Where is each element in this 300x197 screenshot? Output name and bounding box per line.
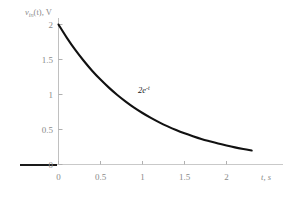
y-tick-label-4: 2 <box>49 20 54 30</box>
y-axis-label-arg: (t), V <box>34 7 53 17</box>
svg-text:vin(t), V: vin(t), V <box>25 7 53 18</box>
curve-label-base: 2e <box>138 85 146 95</box>
x-tick-label-1: 0.5 <box>95 172 107 182</box>
x-axis-label: t, s <box>261 172 272 182</box>
y-tick-label-1: 0.5 <box>42 125 54 135</box>
x-axis-ticks <box>59 161 227 165</box>
y-axis-label: vin(t), V <box>25 7 53 18</box>
curve-label-annotation: 2e-t <box>138 85 150 95</box>
y-axis-ticks <box>59 25 63 165</box>
x-tick-label-4: 2 <box>224 172 229 182</box>
exponential-decay-plot: 0 0.5 1 1.5 2 0 0.5 1 1.5 2 t, s vin(t),… <box>0 0 300 197</box>
chart-figure: 0 0.5 1 1.5 2 0 0.5 1 1.5 2 t, s vin(t),… <box>0 0 300 197</box>
x-tick-label-0: 0 <box>56 172 61 182</box>
y-tick-label-0: 0 <box>49 160 54 170</box>
y-tick-label-3: 1.5 <box>42 55 54 65</box>
curve-label-exponent: -t <box>146 85 150 91</box>
x-tick-label-3: 1.5 <box>179 172 191 182</box>
y-tick-label-2: 1 <box>49 90 54 100</box>
x-tick-label-2: 1 <box>140 172 145 182</box>
curve-exponential-decay <box>59 25 252 151</box>
